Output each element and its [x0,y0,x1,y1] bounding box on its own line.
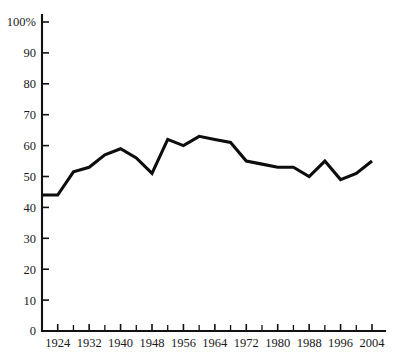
x-tick-label: 1932 [77,336,102,350]
x-tick-label: 1948 [140,336,165,350]
y-tick-label: 20 [24,263,37,277]
x-tick-label: 1980 [265,336,290,350]
x-axis-tick-labels: 1924193219401948195619641972198019881996… [45,336,385,350]
y-tick-label: 30 [24,232,37,246]
chart-canvas: 0102030405060708090100% 1924193219401948… [0,0,395,363]
y-tick-label: 70 [24,108,37,122]
y-tick-label: 40 [24,201,37,215]
turnout-line-chart: 0102030405060708090100% 1924193219401948… [0,0,395,363]
x-tick-label: 1964 [202,336,228,350]
y-tick-label: 100% [7,15,36,29]
x-tick-label: 1956 [171,336,196,350]
x-tick-label: 1972 [234,336,259,350]
x-tick-label: 1924 [45,336,71,350]
y-tick-label: 50 [24,170,37,184]
y-tick-label: 80 [24,77,37,91]
y-tick-label: 0 [30,324,36,338]
x-tick-label: 1988 [297,336,322,350]
x-tick-label: 2004 [360,336,386,350]
data-series-line [42,136,372,195]
y-tick-label: 90 [24,46,37,60]
x-tick-label: 1940 [108,336,133,350]
y-tick-label: 60 [24,139,37,153]
y-tick-label: 10 [24,294,37,308]
y-axis-tick-labels: 0102030405060708090100% [7,15,36,338]
x-tick-label: 1996 [328,336,353,350]
